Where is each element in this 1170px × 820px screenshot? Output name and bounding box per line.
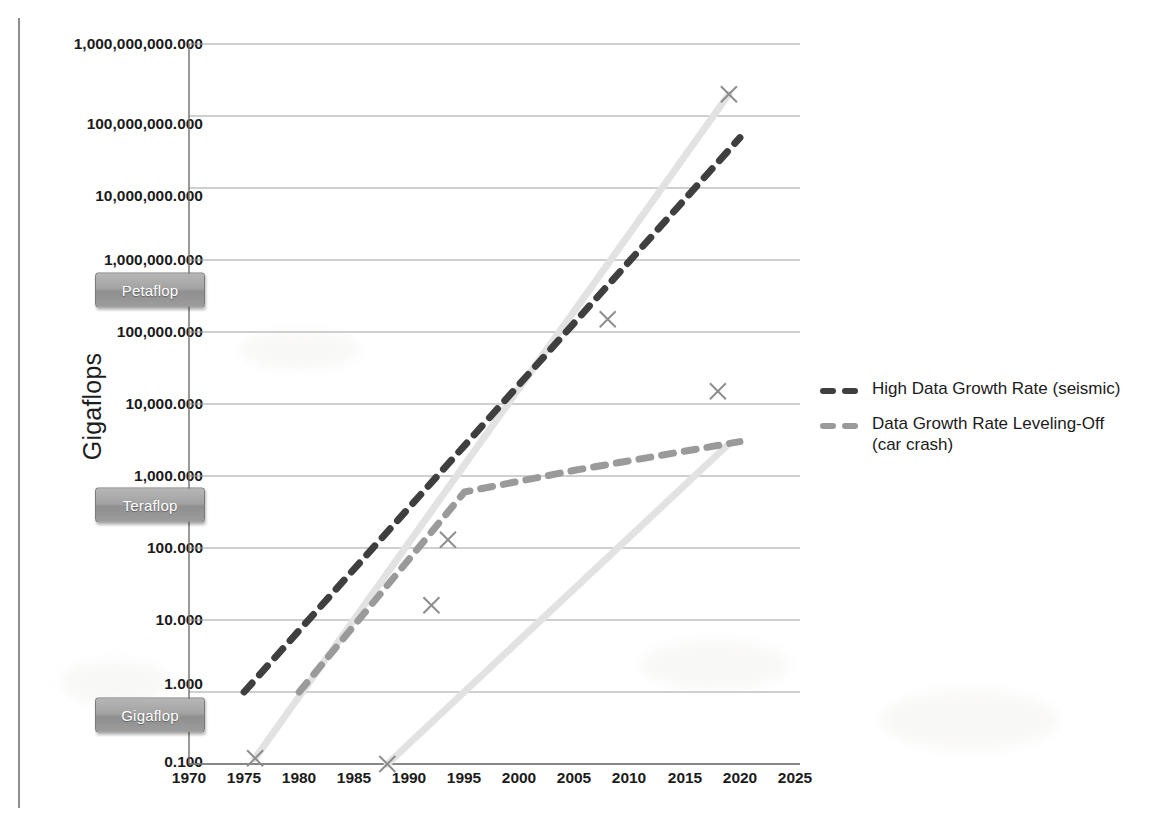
series-dashed-lines — [244, 138, 740, 692]
x-tick-label: 2010 — [612, 769, 646, 787]
legend-item-label-line2: (car crash) — [872, 435, 953, 454]
series-line — [387, 444, 729, 764]
x-tick-label: 1995 — [447, 769, 481, 787]
threshold-pill-teraflop[interactable]: Teraflop — [95, 488, 205, 523]
legend-item-label-line1: Data Growth Rate Leveling-Off — [872, 414, 1104, 433]
series-line — [244, 138, 740, 692]
legend-dash-swatch-icon — [820, 416, 864, 436]
x-tick-label: 2020 — [723, 769, 757, 787]
x-marker-icon — [440, 532, 456, 548]
series-line — [299, 442, 740, 692]
x-marker-icon — [710, 383, 726, 399]
x-tick-label: 1970 — [172, 769, 206, 787]
x-tick-label: 2015 — [668, 769, 702, 787]
x-tick-label: 2025 — [778, 769, 812, 787]
chart-container: Gigaflops 1,000,000,000.000 100,000,000.… — [0, 0, 1170, 820]
threshold-pill-petaflop[interactable]: Petaflop — [95, 273, 205, 308]
legend-item-label: Data Growth Rate Leveling-Off (car crash… — [872, 413, 1104, 455]
x-tick-label: 2005 — [557, 769, 591, 787]
legend-dash-swatch-icon — [820, 381, 864, 401]
x-tick-label: 1985 — [337, 769, 371, 787]
x-marker-icon — [600, 311, 616, 327]
legend-item-label: High Data Growth Rate (seismic) — [872, 378, 1120, 399]
x-marker-icon — [423, 597, 439, 613]
threshold-pill-gigaflop[interactable]: Gigaflop — [95, 698, 205, 733]
x-axis-tick-labels: 1970 1975 1980 1985 1990 1995 2000 2005 … — [0, 769, 1170, 797]
x-tick-label: 1980 — [282, 769, 316, 787]
series-solid-lines — [255, 94, 729, 764]
x-tick-label: 1990 — [392, 769, 426, 787]
legend-item-high-data-growth[interactable]: High Data Growth Rate (seismic) — [820, 378, 1160, 401]
x-tick-label: 1975 — [227, 769, 261, 787]
chart-legend: High Data Growth Rate (seismic) Data Gro… — [820, 378, 1160, 467]
x-tick-label: 2000 — [502, 769, 536, 787]
legend-item-leveling-off[interactable]: Data Growth Rate Leveling-Off (car crash… — [820, 413, 1160, 455]
